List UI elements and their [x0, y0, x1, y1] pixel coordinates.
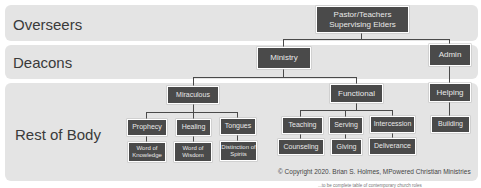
node-word-of-knowledge: Word of Knowledge: [128, 142, 166, 162]
connector: [193, 77, 357, 78]
node-pastor-line1: Pastor/Teachers: [334, 10, 392, 19]
node-intercession: Intercession: [370, 116, 415, 133]
node-giving: Giving: [331, 139, 362, 155]
node-word-of-wisdom: Word of Wisdom: [174, 142, 212, 162]
connector: [146, 135, 147, 142]
connector: [345, 110, 346, 117]
band-deacons: [5, 45, 478, 79]
connector: [283, 68, 284, 77]
node-ministry: Ministry: [257, 47, 311, 69]
connector: [193, 135, 194, 142]
node-prophecy: Prophecy: [127, 119, 167, 136]
connector: [193, 112, 194, 119]
node-teaching: Teaching: [282, 117, 323, 134]
node-pastor-line2: Supervising Elders: [329, 20, 396, 29]
node-deliverance: Deliverance: [369, 138, 416, 155]
band-label-rest-of-body: Rest of Body: [15, 126, 101, 143]
connector: [193, 77, 194, 86]
node-serving: Serving: [329, 117, 363, 134]
node-pastor-teachers: Pastor/Teachers Supervising Elders: [316, 6, 409, 33]
connector: [300, 110, 393, 111]
connector: [449, 65, 450, 83]
node-miraculous: Miraculous: [167, 86, 219, 104]
copyright-text: © Copyright 2020. Brian S. Holmes, MPowe…: [278, 168, 471, 175]
connector: [146, 112, 147, 119]
connector: [449, 101, 450, 117]
footnote-text: ...to be complete table of contemporary …: [318, 183, 422, 188]
node-healing: Healing: [176, 119, 211, 136]
node-admin: Admin: [429, 44, 471, 66]
connector: [193, 103, 194, 112]
connector: [283, 39, 450, 40]
node-distinction-of-spirits: Distinction of Spirits: [220, 141, 257, 161]
connector: [356, 102, 357, 110]
band-label-deacons: Deacons: [13, 54, 72, 71]
node-counseling: Counseling: [278, 139, 324, 155]
connector: [300, 110, 301, 117]
node-helping: Helping: [429, 83, 471, 102]
node-building: Building: [431, 116, 470, 133]
node-functional: Functional: [330, 84, 383, 103]
band-label-overseers: Overseers: [13, 16, 82, 33]
node-tongues: Tongues: [220, 118, 256, 135]
connector: [146, 112, 238, 113]
